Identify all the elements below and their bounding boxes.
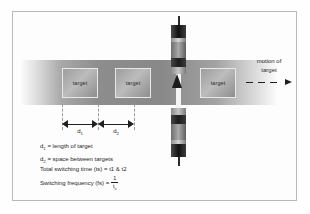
arrow-head-right-icon (285, 79, 292, 85)
sensor-collar (171, 58, 186, 67)
dimension-subscript: 1 (80, 131, 82, 136)
legend-text: = space between targets (46, 156, 113, 162)
target-block-2: target (115, 68, 151, 98)
arrow-dash (270, 82, 277, 83)
legend-item-d1: d1 = length of target (40, 141, 113, 154)
legend-text: = length of target (46, 143, 93, 149)
arrow-head-right-icon (128, 120, 134, 128)
sensor-probe-upper (171, 16, 186, 74)
sensor-cable-icon (178, 16, 180, 25)
denominator-subscript: s (114, 186, 116, 191)
dimension-subscript: 2 (116, 131, 118, 136)
dimension-line (102, 124, 130, 125)
motion-of-target-label: motion of target (238, 57, 300, 74)
dimension-label-d1: d1 (62, 128, 98, 136)
motion-label-line1: motion of (238, 57, 300, 66)
sensor-collar (171, 115, 186, 124)
beam-direction-arrow-icon (172, 74, 182, 88)
extension-line-right (134, 104, 135, 130)
sensor-body (171, 42, 186, 58)
motion-label-line2: target (238, 66, 300, 75)
sensor-switching-diagram: target target target d1 (0, 0, 310, 214)
target-label: target (211, 80, 226, 86)
formula-switching-frequency: Switching frequency (fs) = 1 ts (40, 176, 127, 191)
dimension-line (66, 124, 94, 125)
sensor-connector (171, 25, 186, 38)
sensor-face (171, 108, 186, 115)
target-block-3: target (200, 68, 236, 98)
formula-block: Total switching time (ts) = t1 & t2 Swit… (40, 163, 127, 191)
dimension-label-d2: d2 (98, 128, 134, 136)
target-label: target (126, 80, 141, 86)
sensor-connector (171, 144, 186, 157)
motion-direction-arrow-icon (246, 79, 292, 86)
fraction-one-over-ts: 1 ts (111, 176, 118, 191)
arrow-dash (258, 82, 265, 83)
arrow-dash (246, 82, 253, 83)
target-block-1: target (62, 68, 98, 98)
formula-lead-text: Switching frequency (fs) = (40, 177, 109, 190)
sensor-probe-lower (171, 108, 186, 166)
sensor-face (171, 67, 186, 74)
sensor-cable-icon (178, 157, 180, 166)
target-label: target (73, 80, 88, 86)
fraction-denominator: ts (113, 183, 117, 191)
sensor-body (171, 124, 186, 140)
